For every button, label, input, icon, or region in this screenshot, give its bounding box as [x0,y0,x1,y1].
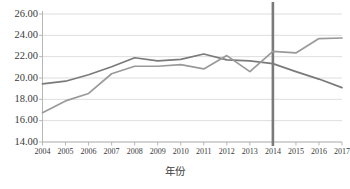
x-axis-label: 2008 [127,148,143,156]
x-axis-label: 2013 [242,148,258,156]
x-axis-label: 2015 [288,148,304,156]
x-axis-label: 2006 [81,148,97,156]
x-axis-label: 2009 [150,148,166,156]
x-axis-tick-labels: 2004200520062007200820092010201120122013… [0,0,350,189]
x-axis-label: 2016 [311,148,327,156]
x-axis-title: 年份 [0,166,350,177]
x-axis-label: 2014 [265,148,281,156]
x-axis-label: 2007 [104,148,120,156]
x-axis-label: 2012 [219,148,235,156]
x-axis-label: 2017 [334,148,350,156]
line-chart: 26.0024.0022.0020.0018.0016.0014.00 2004… [0,0,350,189]
x-axis-label: 2004 [35,148,51,156]
x-axis-label: 2011 [196,148,212,156]
x-axis-label: 2005 [58,148,74,156]
x-axis-label: 2010 [173,148,189,156]
